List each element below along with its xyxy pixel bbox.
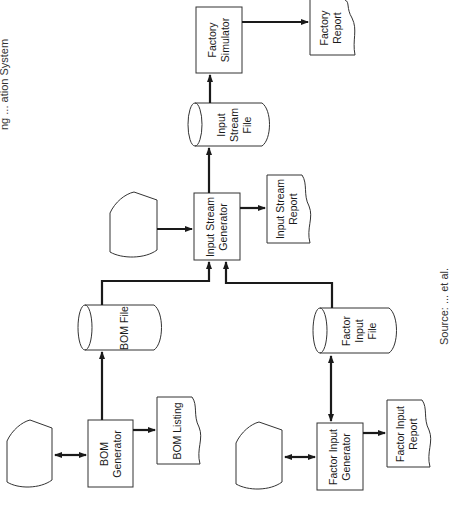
input-stream-generator: Input StreamGenerator — [194, 193, 240, 260]
label-line: File — [366, 316, 379, 346]
label-line: Generator — [111, 430, 124, 477]
figure-title: ng ... ation System — [0, 39, 10, 130]
input-stream-file: InputStreamFile — [202, 103, 266, 146]
figure-caption: Source: ... et al. — [438, 268, 450, 345]
label-line: Factor Input — [394, 405, 407, 461]
manual-input-shape-isg — [110, 192, 157, 257]
label-line: Report — [331, 10, 344, 45]
label-line: Report — [287, 179, 300, 239]
label-line: Input Stream — [204, 196, 217, 256]
label-line: BOM File — [118, 306, 131, 350]
label-line: Factory — [206, 18, 219, 62]
label-line: BOM — [98, 430, 111, 477]
label-line: Input — [215, 108, 228, 142]
input-stream-report: Input StreamReport — [267, 175, 307, 243]
label-line: Factory — [318, 10, 331, 45]
arrow-factorfile-to-isg — [226, 262, 332, 308]
bom-listing: BOM Listing — [157, 397, 197, 464]
factory-simulator: FactorySimulator — [196, 7, 242, 73]
bom-file: BOM File — [92, 305, 156, 350]
label-line: BOM Listing — [171, 402, 184, 459]
label-line: Simulator — [219, 18, 232, 62]
bom-generator: BOMGenerator — [88, 420, 133, 487]
label-line: Factor Input — [327, 428, 340, 484]
arrow-bomfile-to-isg — [102, 262, 209, 305]
label-line: Generator — [340, 428, 353, 484]
label-line: Stream — [228, 108, 241, 142]
label-line: Report — [407, 405, 420, 461]
factory-report: FactoryReport — [310, 0, 352, 55]
factor-input-report: Factor InputReport — [387, 400, 427, 467]
factor-input-file: FactorInputFile — [327, 308, 391, 353]
label-line: Input — [353, 316, 366, 346]
manual-input-shape-factor — [236, 422, 282, 489]
label-line: Generator — [217, 196, 230, 256]
label-line: File — [241, 108, 254, 142]
factor-input-generator: Factor InputGenerator — [317, 423, 363, 490]
label-line: Input Stream — [274, 179, 287, 239]
label-line: Factor — [340, 316, 353, 346]
manual-input-shape-bom — [7, 420, 52, 487]
